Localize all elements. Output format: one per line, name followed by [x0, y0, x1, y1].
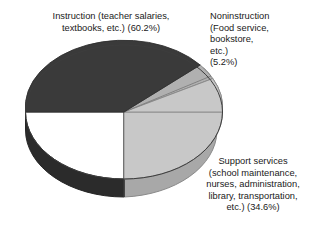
slice-label-noninstruction: Noninstruction (Food service, bookstore,…	[210, 11, 322, 69]
instruction-side-wall	[26, 112, 125, 197]
slice-label-instruction: Instruction (teacher salaries, textbooks…	[18, 11, 204, 34]
slice-label-support: Support services (school maintenance, nu…	[183, 156, 323, 214]
pie-chart-figure: Instruction (teacher salaries, textbooks…	[0, 0, 325, 238]
